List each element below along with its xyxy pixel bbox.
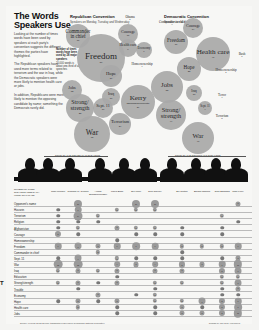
usage-dot — [180, 232, 184, 236]
row-term-label: Terrorism — [14, 214, 26, 218]
usage-dot: 3 — [179, 305, 184, 310]
usage-dot — [76, 220, 80, 224]
bubble-value: 4 — [208, 97, 236, 99]
usage-dot — [180, 251, 184, 255]
bubble-label: Strong/ strength — [156, 107, 186, 120]
usage-dot: 4 — [152, 262, 158, 268]
bubble-value: 16 — [102, 109, 105, 111]
row-term-label: Courage — [14, 233, 25, 237]
usage-dot: 2 — [96, 268, 100, 272]
usage-dot: 2 — [200, 244, 204, 248]
usage-dot — [56, 226, 60, 230]
intro-text: Looking at the number of times words hav… — [14, 32, 64, 115]
row-term-label: Iraq — [14, 269, 19, 273]
usage-dot: 3 — [199, 311, 204, 316]
usage-dot — [115, 238, 119, 242]
usage-dot — [180, 226, 184, 230]
usage-dot: 2 — [56, 268, 60, 272]
bubble-label: Health care — [197, 49, 230, 56]
dem-small-label: Terrorism8 — [208, 115, 236, 121]
bubble-value: 4 — [204, 109, 205, 111]
usage-dot: 2 — [180, 281, 184, 285]
usage-dot: 3 — [179, 311, 184, 316]
usage-dot: 7 — [235, 267, 242, 274]
usage-dot — [236, 293, 240, 297]
usage-dot: 2 — [236, 274, 240, 278]
rep-convention-title: Republican Convention — [70, 14, 115, 19]
usage-dot — [220, 226, 224, 230]
row-term-label: Jobs — [14, 312, 20, 316]
row-term-label: Hussein — [14, 208, 24, 212]
usage-dot: 11 — [234, 309, 242, 317]
usage-dot — [56, 299, 60, 303]
row-term-label: Religion — [14, 220, 24, 224]
usage-dot — [200, 305, 204, 309]
usage-dot: 2 — [153, 207, 157, 211]
page-edge-mark: T — [0, 280, 4, 286]
usage-dot — [220, 293, 224, 297]
usage-dot: 2 — [56, 281, 60, 285]
usage-dot: 2 — [153, 299, 157, 303]
usage-dot: 3 — [114, 299, 119, 304]
usage-dot: 2 — [76, 305, 80, 309]
bubble-value: 47 — [212, 57, 215, 59]
bubble-key-scale: 20,000 words is about one-third of all s… — [56, 62, 80, 72]
usage-dot: 2 — [220, 281, 224, 285]
usage-dot: 3 — [179, 268, 184, 273]
row-term-label: Opponent's name — [14, 202, 36, 206]
usage-dot — [153, 287, 157, 291]
table-row: Jobs33511 — [14, 311, 252, 317]
row-term-label: Strong/strength — [14, 281, 33, 285]
usage-dot: 2 — [134, 207, 138, 211]
bubble-value: 65 — [91, 137, 94, 139]
usage-dot: 7 — [235, 279, 242, 286]
column-header-speaker: Barack Obama — [191, 190, 213, 193]
bubble-value: 44 — [170, 121, 173, 123]
graphic-credit: Graphic by The New York Times — [209, 322, 240, 324]
table-body: Opponent's name1010103Hussein6222Terrori… — [14, 201, 252, 317]
usage-dot: 2 — [220, 274, 224, 278]
table-header: NUMBER OF TIMES SPEAKERS USED EACH WORD … — [14, 187, 252, 201]
usage-dot: 6 — [235, 243, 242, 250]
column-header-speaker: Rudolph W. Giuliani — [67, 190, 89, 193]
bubble-value: 11 — [127, 35, 129, 37]
bubble-value: 19 — [110, 78, 113, 80]
usage-dot — [134, 232, 138, 236]
usage-dot: 5 — [219, 310, 225, 316]
column-header-speaker: John McCain — [47, 190, 69, 193]
row-term-label: Sept. 11 — [14, 257, 24, 261]
usage-dot — [153, 257, 157, 261]
bubble-label: Hope — [106, 72, 116, 77]
column-header-speaker: John Kerry — [227, 190, 249, 193]
usage-dot — [56, 208, 60, 212]
dem-bubble: Strong/ strength44 — [156, 100, 186, 130]
usage-dot: 3 — [95, 244, 100, 249]
usage-dot: 3 — [152, 268, 157, 273]
row-term-label: Health care — [14, 306, 28, 310]
dem-small-label: Homeownership1 — [212, 69, 240, 75]
bubble-value: 46 — [197, 141, 200, 143]
bubble-value: 25 — [188, 71, 191, 73]
bubble-value: 10 — [193, 94, 196, 96]
usage-dot — [236, 220, 240, 224]
bubble-label: Strong/ strength — [66, 100, 94, 112]
usage-dot: 2 — [180, 299, 184, 303]
bubble-label: Kerry — [130, 95, 147, 102]
rep-bubble: Sept. 1116 — [93, 98, 113, 118]
dem-convention-title: Democratic Convention — [164, 14, 209, 19]
usage-dot — [180, 257, 184, 261]
usage-dot: 3 — [114, 225, 119, 230]
usage-dot — [56, 220, 60, 224]
usage-dot — [220, 232, 224, 236]
usage-dot — [76, 232, 80, 236]
usage-dot: 2 — [153, 293, 157, 297]
bubble-value: 9 — [127, 49, 128, 51]
dem-small-label: Terror4 — [208, 94, 236, 100]
usage-dot: 3 — [114, 268, 119, 273]
page-title: The Words Speakers Use — [14, 12, 74, 30]
rep-bubble: Hope19 — [100, 65, 122, 87]
row-term-label: Trouble — [14, 288, 23, 292]
usage-dot — [153, 305, 157, 309]
infographic-page: The Words Speakers Use Looking at the nu… — [6, 6, 252, 324]
bubble-value: 25 — [79, 113, 82, 115]
